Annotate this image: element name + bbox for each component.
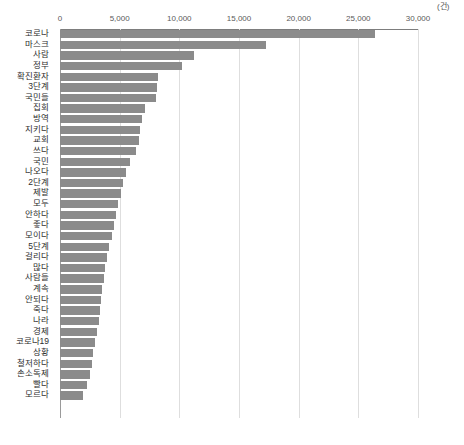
bar-row: 안하다 xyxy=(0,210,464,221)
bar-18 xyxy=(60,221,114,229)
category-label-34: 모르다 xyxy=(25,389,49,400)
category-label-2: 사람 xyxy=(33,49,49,60)
category-label-30: 상황 xyxy=(33,347,49,358)
category-label-5: 3단계 xyxy=(28,81,49,92)
bar-9 xyxy=(60,126,140,134)
bar-row: 지키다 xyxy=(0,125,464,136)
bar-1 xyxy=(60,41,266,49)
bar-row: 걸리다 xyxy=(0,252,464,263)
category-label-23: 사람들 xyxy=(25,272,49,283)
bar-19 xyxy=(60,232,112,240)
bar-7 xyxy=(60,104,145,112)
bar-23 xyxy=(60,274,104,282)
bar-row: 쓰다 xyxy=(0,146,464,157)
bar-row: 2단계 xyxy=(0,178,464,189)
bar-27 xyxy=(60,317,99,325)
bar-row: 국민 xyxy=(0,157,464,168)
category-label-28: 경제 xyxy=(33,326,49,337)
bar-20 xyxy=(60,243,109,251)
category-label-22: 많다 xyxy=(33,262,49,273)
category-label-25: 안되다 xyxy=(25,294,49,305)
bar-row: 사람들 xyxy=(0,273,464,284)
bar-row: 계속 xyxy=(0,284,464,295)
bar-31 xyxy=(60,360,92,368)
bar-row: 좋다 xyxy=(0,220,464,231)
bar-row: 교회 xyxy=(0,135,464,146)
bar-14 xyxy=(60,179,123,187)
bar-chart: 05,00010,00015,00020,00025,00030,000 (건)… xyxy=(0,0,464,445)
category-label-20: 5단계 xyxy=(28,241,49,252)
bar-34 xyxy=(60,391,83,399)
category-label-11: 쓰다 xyxy=(33,145,49,156)
bar-29 xyxy=(60,338,95,346)
category-label-9: 지키다 xyxy=(25,124,49,135)
category-label-10: 교회 xyxy=(33,134,49,145)
bar-10 xyxy=(60,136,139,144)
category-label-17: 안하다 xyxy=(25,209,49,220)
category-label-19: 모이다 xyxy=(25,230,49,241)
bar-row: 많다 xyxy=(0,263,464,274)
category-label-29: 코로나19 xyxy=(16,336,49,347)
bar-row: 경제 xyxy=(0,327,464,338)
bar-row: 죽다 xyxy=(0,305,464,316)
category-label-7: 집회 xyxy=(33,102,49,113)
bar-25 xyxy=(60,296,101,304)
bar-row: 확진환자 xyxy=(0,72,464,83)
bar-row: 철저하다 xyxy=(0,359,464,370)
bar-22 xyxy=(60,264,105,272)
category-label-15: 제발 xyxy=(33,187,49,198)
bar-row: 정부 xyxy=(0,61,464,72)
bar-row: 집회 xyxy=(0,103,464,114)
bar-6 xyxy=(60,94,156,102)
category-label-14: 2단계 xyxy=(28,177,49,188)
bar-0 xyxy=(60,30,375,38)
bar-3 xyxy=(60,62,182,70)
bar-row: 국민들 xyxy=(0,93,464,104)
bar-13 xyxy=(60,168,126,176)
bar-17 xyxy=(60,211,116,219)
bar-row: 마스크 xyxy=(0,40,464,51)
bar-row: 사람 xyxy=(0,50,464,61)
bar-33 xyxy=(60,381,87,389)
bar-row: 5단계 xyxy=(0,242,464,253)
category-label-12: 국민 xyxy=(33,156,49,167)
category-label-16: 모두 xyxy=(33,198,49,209)
bar-8 xyxy=(60,115,142,123)
bar-row: 손소독제 xyxy=(0,369,464,380)
category-label-1: 마스크 xyxy=(25,39,49,50)
bar-2 xyxy=(60,51,194,59)
category-label-8: 방역 xyxy=(33,113,49,124)
category-label-24: 계속 xyxy=(33,283,49,294)
bar-row: 상황 xyxy=(0,348,464,359)
bar-row: 방역 xyxy=(0,114,464,125)
bar-row: 안되다 xyxy=(0,295,464,306)
category-label-31: 철저하다 xyxy=(17,358,49,369)
bar-12 xyxy=(60,158,130,166)
category-label-0: 코로나 xyxy=(25,28,49,39)
bar-30 xyxy=(60,349,93,357)
bar-row: 나라 xyxy=(0,316,464,327)
bar-row: 모두 xyxy=(0,199,464,210)
bar-row: 모르다 xyxy=(0,390,464,401)
category-label-13: 나오다 xyxy=(25,166,49,177)
bar-rows: 코로나마스크사람정부확진환자3단계국민들집회방역지키다교회쓰다국민나오다2단계제… xyxy=(0,0,464,445)
category-label-6: 국민들 xyxy=(25,92,49,103)
category-label-3: 정부 xyxy=(33,60,49,71)
category-label-27: 나라 xyxy=(33,315,49,326)
bar-15 xyxy=(60,189,121,197)
category-label-33: 빨다 xyxy=(33,379,49,390)
category-label-18: 좋다 xyxy=(33,219,49,230)
bar-11 xyxy=(60,147,136,155)
category-label-32: 손소독제 xyxy=(17,368,49,379)
bar-row: 3단계 xyxy=(0,82,464,93)
bar-row: 나오다 xyxy=(0,167,464,178)
bar-row: 모이다 xyxy=(0,231,464,242)
bar-28 xyxy=(60,328,97,336)
bar-row: 코로나 xyxy=(0,29,464,40)
bar-26 xyxy=(60,306,100,314)
category-label-26: 죽다 xyxy=(33,304,49,315)
bar-32 xyxy=(60,370,90,378)
bar-16 xyxy=(60,200,118,208)
bar-5 xyxy=(60,83,157,91)
category-label-4: 확진환자 xyxy=(17,71,49,82)
